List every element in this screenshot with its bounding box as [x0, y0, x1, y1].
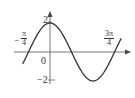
- origin-label: 0: [41, 56, 46, 66]
- x-axis-arrow-icon: [125, 50, 131, 55]
- x-label-neg-pi-over-4-den: 4: [21, 39, 27, 47]
- plot-area: [0, 0, 135, 98]
- y-label-2: 2: [43, 15, 48, 25]
- y-label-neg2: −2: [37, 75, 48, 85]
- x-label-neg-pi-over-4: π 4: [21, 30, 27, 47]
- x-label-3pi-over-4-den: 4: [104, 39, 114, 47]
- x-label-3pi-over-4: 3π 4: [104, 30, 114, 47]
- neg-sign: −: [14, 36, 19, 45]
- y-axis-arrow-icon: [48, 11, 53, 17]
